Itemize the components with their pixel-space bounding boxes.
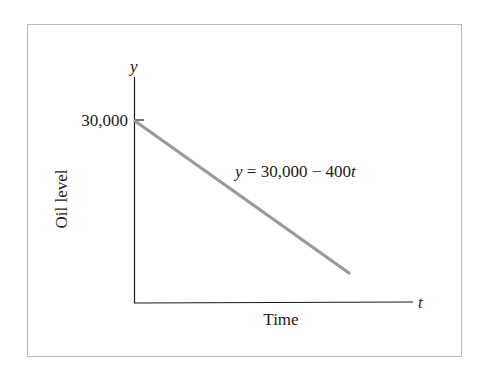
x-axis-label: Time [263,310,298,329]
equation-t: t [351,162,357,181]
chart-svg: y t 30,000 Oil level Time y = 30,000 − 4… [0,0,485,366]
equation-body: = 30,000 − 400 [243,162,351,181]
y-axis-label: Oil level [52,169,71,228]
equation-annotation: y = 30,000 − 400t [233,162,357,181]
t-axis-symbol: t [418,293,424,312]
x-axis [134,302,413,303]
series-line [135,121,349,273]
y-axis-symbol: y [128,57,138,76]
equation-y: y [233,162,243,181]
y-tick-label: 30,000 [81,111,128,130]
